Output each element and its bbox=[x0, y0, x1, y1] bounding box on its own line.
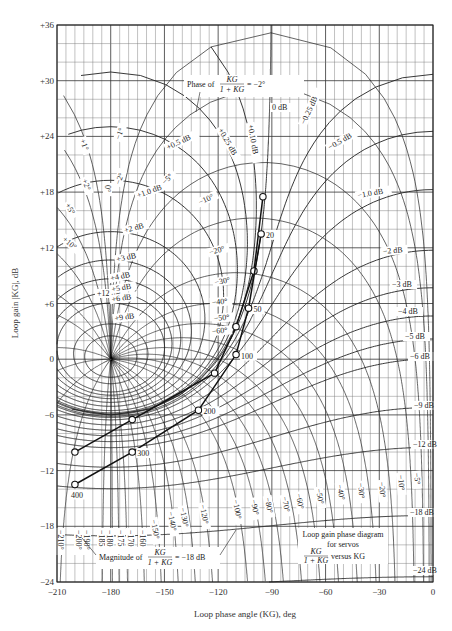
contour-labels: +12 dB+9 dB+6 dB+5 dB+4 dB+3 dB+2 dB+1.0… bbox=[56, 87, 443, 575]
contour-label: −10° bbox=[396, 474, 406, 490]
x-tick-label: 0 bbox=[431, 587, 436, 597]
y-tick-label: +24 bbox=[40, 131, 55, 141]
legend-frac-num: KG bbox=[309, 547, 321, 556]
mag-note-prefix: Magnitude of bbox=[99, 553, 143, 562]
contour-label: −18 dB bbox=[410, 508, 434, 517]
phase-frac-num: KG bbox=[225, 75, 237, 84]
data-point bbox=[258, 231, 264, 237]
contour-label: 0 dB bbox=[272, 103, 287, 112]
x-tick-label: −90 bbox=[265, 587, 280, 597]
contour-label: +0.5 dB bbox=[165, 133, 192, 152]
data-point bbox=[129, 416, 135, 422]
contour-label: 0° bbox=[103, 185, 112, 192]
x-tick-label: −150 bbox=[155, 587, 174, 597]
contour-label: +0.25 dB bbox=[216, 127, 239, 157]
contour-label: −30° bbox=[214, 275, 231, 287]
data-point bbox=[233, 351, 239, 357]
y-axis-label: Loop gain |KG|, dB bbox=[10, 268, 20, 339]
contour-label: −4 dB bbox=[398, 307, 418, 316]
contour-label: −140° bbox=[166, 511, 178, 532]
contour-label: +1.0 dB bbox=[136, 183, 163, 200]
contour-label: −0.25 dB bbox=[299, 95, 320, 126]
legend-frac-den: 1 + KG bbox=[304, 556, 329, 565]
phase-frac-den: 1 + KG bbox=[220, 85, 245, 94]
nichols-chart: 2050100200300400 +12 dB+9 dB+6 dB+5 dB+4… bbox=[0, 0, 452, 631]
data-point bbox=[260, 194, 266, 200]
contour-label: +0.10 dB bbox=[246, 124, 260, 155]
contour-label: −50° bbox=[213, 313, 229, 323]
contour-label: −40° bbox=[211, 297, 227, 307]
contour-label: −120° bbox=[198, 504, 210, 525]
contour-label: −2 dB bbox=[382, 245, 403, 256]
y-tick-label: +30 bbox=[40, 76, 55, 86]
data-point bbox=[245, 305, 251, 311]
mag-note-suffix: = −18 dB bbox=[175, 553, 205, 562]
contour-label: −60° bbox=[211, 326, 227, 336]
frequency-label: 50 bbox=[254, 305, 262, 314]
contour-label: −150° bbox=[149, 519, 161, 540]
contour-label: −30° bbox=[356, 482, 366, 498]
data-point bbox=[129, 449, 135, 455]
mag-frac-num: KG bbox=[153, 548, 165, 557]
data-point bbox=[72, 449, 78, 455]
contour-label: −60° bbox=[294, 493, 306, 510]
contour-label: −0.5 dB bbox=[327, 131, 354, 152]
x-tick-label: −210 bbox=[48, 587, 67, 597]
contour-label: −100° bbox=[231, 499, 243, 520]
x-tick-label: −120 bbox=[209, 587, 228, 597]
legend-versus: versus KG bbox=[331, 552, 365, 561]
contour-label: −200° bbox=[74, 530, 83, 550]
contour-label: −5° bbox=[412, 472, 422, 484]
x-axis-label: Loop phase angle (KG), deg bbox=[194, 609, 297, 619]
x-tick-label: −60 bbox=[319, 587, 334, 597]
frequency-label: 200 bbox=[203, 407, 215, 416]
y-tick-label: +18 bbox=[40, 187, 55, 197]
y-tick-label: +12 bbox=[40, 243, 54, 253]
legend-subtitle: for servos bbox=[327, 540, 359, 549]
legend-box: Loop gain phase diagram for servos KG 1 … bbox=[298, 528, 388, 565]
contour-label: −20° bbox=[377, 481, 387, 497]
data-point bbox=[195, 407, 201, 413]
contour-label: −3 dB bbox=[392, 280, 412, 289]
y-tick-label: −12 bbox=[40, 466, 54, 476]
frequency-label: 20 bbox=[266, 231, 274, 240]
data-point bbox=[233, 324, 239, 330]
x-axis-ticks: −210−180−150−120−90−60−300 bbox=[48, 587, 436, 597]
legend-title: Loop gain phase diagram bbox=[302, 530, 384, 539]
frequency-label: 100 bbox=[241, 352, 253, 361]
contour-label: −50° bbox=[314, 488, 326, 505]
contour-label: −9 dB bbox=[414, 401, 434, 410]
contour-label: −80° bbox=[263, 497, 275, 514]
mag-frac-den: 1 + KG bbox=[148, 558, 173, 567]
contour-label: −20° bbox=[208, 244, 226, 257]
y-tick-label: +6 bbox=[44, 299, 54, 309]
contour-label: −175° bbox=[116, 530, 125, 550]
contour-label: −5 dB bbox=[405, 332, 425, 341]
y-tick-label: +36 bbox=[40, 20, 55, 30]
y-tick-label: 0 bbox=[50, 354, 55, 364]
contour-label: +9 dB bbox=[114, 311, 135, 323]
contour-label: −160° bbox=[138, 530, 147, 550]
y-tick-label: −18 bbox=[40, 521, 55, 531]
x-tick-label: −30 bbox=[372, 587, 387, 597]
data-point bbox=[72, 481, 78, 487]
frequency-label: 400 bbox=[71, 491, 83, 500]
y-tick-label: −24 bbox=[40, 577, 55, 587]
contour-label: −130° bbox=[178, 507, 190, 528]
contour-label: −170° bbox=[126, 530, 135, 550]
contour-label: −180° bbox=[105, 530, 114, 550]
data-point bbox=[211, 370, 217, 376]
contour-label: −185° bbox=[97, 530, 106, 550]
phase-note-prefix: Phase of bbox=[187, 80, 215, 89]
x-tick-label: −180 bbox=[101, 587, 120, 597]
y-tick-label: −6 bbox=[44, 410, 54, 420]
y-axis-ticks: +36+30+24+18+12+60−6−12−18−24 bbox=[40, 20, 55, 587]
contour-label: −6 dB bbox=[410, 352, 430, 361]
frequency-label: 300 bbox=[137, 449, 149, 458]
contour-label: −90° bbox=[249, 499, 261, 516]
contour-label: −40° bbox=[335, 484, 347, 501]
contour-label: −70° bbox=[280, 496, 292, 513]
phase-note-suffix: = −2° bbox=[247, 80, 265, 89]
contour-label: +3 dB bbox=[116, 251, 137, 264]
